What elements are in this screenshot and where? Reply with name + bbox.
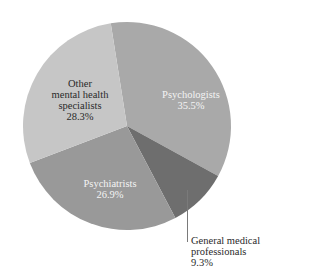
slice-percent: 26.9% <box>62 189 158 200</box>
slice-name-line2: mental health <box>38 89 122 100</box>
slice-label-psychologists: Psychologists 35.5% <box>146 89 236 111</box>
slice-name-line2: professionals <box>191 246 274 257</box>
slice-name: Psychologists <box>146 89 236 100</box>
slice-name-line1: Other <box>38 78 122 89</box>
slice-name: Psychiatrists <box>62 178 158 189</box>
slice-percent: 9.3% <box>191 257 274 268</box>
slice-percent: 28.3% <box>38 111 122 122</box>
slice-name-line3: specialists <box>38 100 122 111</box>
slice-label-other: Other mental health specialists 28.3% <box>38 78 122 122</box>
slice-label-general-medical: General medical professionals 9.3% <box>191 235 274 268</box>
slice-name-line1: General medical <box>191 235 274 246</box>
slice-label-psychiatrists: Psychiatrists 26.9% <box>62 178 158 200</box>
leader-line <box>187 190 188 242</box>
slice-percent: 35.5% <box>146 100 236 111</box>
